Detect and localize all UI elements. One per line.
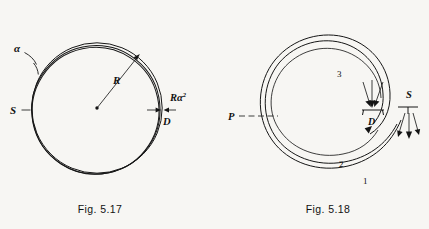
detector-arrow-right-head xyxy=(164,107,169,112)
trajectory-2-label: 2 xyxy=(339,159,344,169)
orbit-circle-inner xyxy=(20,36,170,186)
source-label-S: S xyxy=(10,104,16,116)
detector-converging-arrows xyxy=(363,80,383,108)
alpha-leader-line xyxy=(25,53,37,65)
trajectory-1-outer-spiral xyxy=(260,35,401,168)
alpha-label: α xyxy=(14,42,21,54)
orbit-circle-middle xyxy=(25,39,166,180)
alpha-angle-arc xyxy=(34,63,39,75)
source-ray-centre-head xyxy=(406,132,412,140)
figure-5-18-caption: Fig. 5.18 xyxy=(306,203,350,215)
detector-arrows xyxy=(147,107,176,112)
figure-sheet: α R S D Rα2 Fig. 5.17 xyxy=(0,0,429,229)
point-p-label: P xyxy=(228,111,235,122)
detector-ray-left xyxy=(363,82,370,103)
figure-5-17-caption: Fig. 5.17 xyxy=(78,203,122,215)
figure-5-17: α R S D Rα2 Fig. 5.17 xyxy=(0,0,215,229)
centre-dot xyxy=(95,106,98,109)
detector-label-D: D xyxy=(367,116,375,127)
detector-label-D: D xyxy=(162,116,171,127)
source-ray-right-head xyxy=(415,129,421,135)
source-label-S: S xyxy=(406,89,412,100)
trajectory-3-inner-spiral xyxy=(271,48,381,155)
spread-label: Rα2 xyxy=(169,91,187,103)
radius-label: R xyxy=(112,74,120,86)
trajectory-1-label: 1 xyxy=(363,176,368,186)
source-diverging-arrows xyxy=(397,113,420,139)
figure-5-18-canvas: D P S 3 2 1 Fig. 5.18 xyxy=(215,0,429,229)
trajectory-3-label: 3 xyxy=(337,69,342,79)
orbit-circles xyxy=(20,36,170,186)
source-ray-left-head xyxy=(397,130,402,137)
trajectory-2-arrowhead xyxy=(365,126,372,133)
source-bar xyxy=(398,107,418,114)
detector-ray-right xyxy=(376,82,384,103)
figure-5-18: D P S 3 2 1 Fig. 5.18 xyxy=(215,0,429,229)
source-ray-right xyxy=(413,113,418,131)
detector-ray-right-head xyxy=(374,100,380,107)
figure-5-17-canvas: α R S D Rα2 Fig. 5.17 xyxy=(0,0,215,229)
